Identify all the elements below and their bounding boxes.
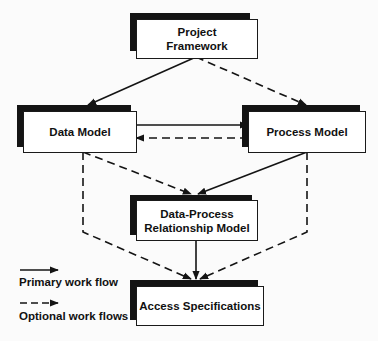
node-label-line2: Relationship Model <box>144 221 249 235</box>
node-project-framework: Project Framework <box>130 13 258 59</box>
node-face: Process Model <box>248 111 366 153</box>
node-process-model: Process Model <box>242 105 366 153</box>
node-data-process-relationship-model: Data-Process Relationship Model <box>130 195 258 241</box>
node-face: Data-Process Relationship Model <box>136 200 258 241</box>
node-access-specifications: Access Specifications <box>130 280 264 326</box>
node-label: Process Model <box>266 125 347 139</box>
node-label: Access Specifications <box>139 299 260 313</box>
node-data-model: Data Model <box>17 105 137 153</box>
node-label-line2: Framework <box>166 39 227 53</box>
edge-process-to-dprm <box>198 152 307 194</box>
node-label-line1: Project <box>178 25 217 39</box>
edge-framework-to-process-model <box>196 57 306 105</box>
legend-optional-label: Optional work flows <box>19 310 128 322</box>
node-label-line1: Data-Process <box>160 207 234 221</box>
node-face: Access Specifications <box>136 286 264 326</box>
node-face: Project Framework <box>136 19 258 59</box>
node-face: Data Model <box>23 111 137 153</box>
edge-framework-to-data-model <box>88 57 196 105</box>
edge-data-to-dprm <box>83 152 191 194</box>
legend-primary-label: Primary work flow <box>19 276 118 288</box>
node-label: Data Model <box>49 125 110 139</box>
